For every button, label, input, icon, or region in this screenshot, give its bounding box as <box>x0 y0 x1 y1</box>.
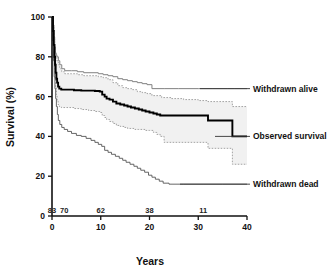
y-tick-label: 40 <box>36 131 46 141</box>
number-at-risk: 11 <box>199 206 207 215</box>
x-axis-tick-labels: 010203040 <box>50 222 252 232</box>
y-axis-title: Survival (%) <box>4 87 16 147</box>
survival-chart-figure: 020406080100 010203040 8370623811 Withdr… <box>0 0 332 269</box>
x-axis-title: Years <box>136 255 164 267</box>
numbers-at-risk-row: 8370623811 <box>48 206 207 215</box>
annotation-label-observed-survival: Observed survival <box>253 131 327 141</box>
x-tick-label: 0 <box>50 222 55 232</box>
y-tick-label: 100 <box>31 12 45 22</box>
number-at-risk: 70 <box>60 206 68 215</box>
x-tick-label: 40 <box>242 222 252 232</box>
annotation-label-withdrawn-dead: Withdrawn dead <box>253 179 319 189</box>
annotation-label-withdrawn-alive: Withdrawn alive <box>253 84 318 94</box>
y-tick-label: 60 <box>36 92 46 102</box>
y-tick-label: 20 <box>36 171 46 181</box>
x-tick-label: 10 <box>96 222 106 232</box>
y-tick-label: 80 <box>36 52 46 62</box>
x-tick-label: 20 <box>145 222 155 232</box>
y-tick-label: 0 <box>40 211 45 221</box>
number-at-risk: 62 <box>97 206 105 215</box>
number-at-risk: 83 <box>48 206 56 215</box>
x-tick-label: 30 <box>194 222 204 232</box>
number-at-risk: 38 <box>145 206 153 215</box>
chart-canvas: 020406080100 010203040 8370623811 Withdr… <box>0 0 332 269</box>
y-axis-tick-labels: 020406080100 <box>31 12 45 221</box>
